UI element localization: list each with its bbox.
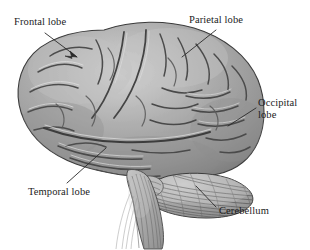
label-temporal-lobe: Temporal lobe: [28, 186, 90, 198]
label-parietal-lobe: Parietal lobe: [189, 14, 243, 26]
brain-anatomy-figure: Frontal lobe Parietal lobe Occipital lob…: [0, 0, 310, 250]
label-cerebellum: Cerebellum: [219, 205, 269, 217]
cerebrum-structure: [16, 22, 270, 184]
label-frontal-lobe: Frontal lobe: [14, 16, 66, 28]
label-occipital-lobe: Occipital lobe: [258, 97, 297, 121]
